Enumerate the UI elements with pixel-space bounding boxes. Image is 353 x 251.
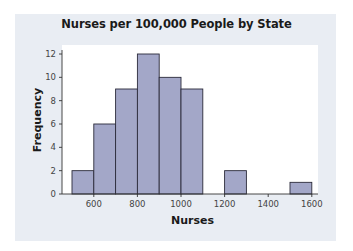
- y-tick-label: 10: [45, 72, 56, 82]
- y-tick-label: 0: [51, 189, 56, 199]
- histogram-bar: [72, 171, 94, 194]
- y-axis-label: Frequency: [31, 88, 44, 152]
- histogram-bar: [137, 54, 159, 194]
- histogram-bar: [116, 89, 138, 194]
- x-tick-label: 1200: [214, 199, 236, 209]
- histogram-bar: [159, 77, 181, 194]
- y-tick-label: 2: [51, 166, 56, 176]
- histogram-bar: [225, 171, 247, 194]
- x-tick-label: 1600: [301, 199, 323, 209]
- y-tick-label: 12: [45, 49, 56, 59]
- y-tick-label: 6: [51, 119, 56, 129]
- x-tick-label: 1400: [257, 199, 279, 209]
- x-axis-label: Nurses: [0, 214, 353, 227]
- x-tick-label: 600: [86, 199, 102, 209]
- y-tick-label: 8: [51, 96, 56, 106]
- x-tick-label: 1000: [170, 199, 192, 209]
- histogram-bar: [290, 182, 312, 194]
- y-tick-label: 4: [51, 142, 56, 152]
- histogram-bar: [181, 89, 203, 194]
- x-tick-label: 800: [129, 199, 145, 209]
- histogram-bar: [94, 124, 116, 194]
